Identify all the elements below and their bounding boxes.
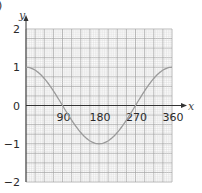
y-tick-label: −1 xyxy=(4,138,20,151)
y-tick-label: −2 xyxy=(4,176,20,189)
y-axis-label: y xyxy=(18,9,26,22)
x-axis-label: x xyxy=(188,100,195,113)
x-tick-label: 90 xyxy=(57,111,71,124)
y-tick-label: 0 xyxy=(13,100,20,113)
part-label: ) xyxy=(0,0,2,12)
y-tick-label: 2 xyxy=(13,23,20,36)
y-tick-labels: 210−1−2 xyxy=(4,23,20,189)
y-tick-label: 1 xyxy=(13,61,20,74)
x-axis-arrow-icon xyxy=(181,103,187,108)
x-tick-label: 360 xyxy=(163,111,184,124)
cosine-graph: ) x y 90180270360 210−1−2 xyxy=(0,0,202,193)
x-tick-label: 180 xyxy=(90,111,111,124)
